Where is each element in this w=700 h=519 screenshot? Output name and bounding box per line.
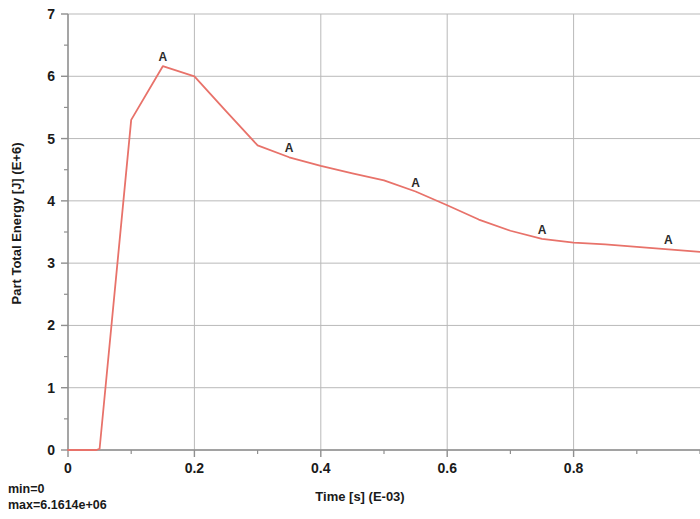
svg-text:3: 3 — [47, 255, 55, 271]
svg-text:7: 7 — [47, 6, 55, 22]
svg-text:0.8: 0.8 — [564, 460, 584, 476]
axis-lines — [68, 14, 700, 450]
gridlines — [68, 14, 700, 450]
max-value-label: max=6.1614e+06 — [8, 498, 107, 512]
x-axis-title: Time [s] (E-03) — [260, 489, 460, 504]
svg-text:A: A — [411, 176, 420, 190]
svg-text:4: 4 — [47, 193, 55, 209]
svg-text:A: A — [285, 141, 294, 155]
line-chart-plot: 0123456700.20.40.60.8 AAAAA — [0, 0, 700, 519]
svg-text:6: 6 — [47, 68, 55, 84]
svg-text:0.6: 0.6 — [437, 460, 457, 476]
series-marker-labels: AAAAA — [158, 50, 673, 247]
data-series-line — [68, 66, 700, 450]
svg-text:A: A — [664, 233, 673, 247]
svg-text:2: 2 — [47, 317, 55, 333]
svg-text:A: A — [158, 50, 167, 64]
svg-text:1: 1 — [47, 380, 55, 396]
svg-text:A: A — [538, 223, 547, 237]
svg-text:0.2: 0.2 — [185, 460, 205, 476]
svg-text:0.4: 0.4 — [311, 460, 331, 476]
min-value-label: min=0 — [8, 482, 44, 496]
svg-text:0: 0 — [64, 460, 72, 476]
svg-text:0: 0 — [47, 442, 55, 458]
axis-ticks — [61, 14, 700, 457]
chart-container: 0123456700.20.40.60.8 AAAAA Part Total E… — [0, 0, 700, 519]
y-axis-title: Part Total Energy [J] (E+6) — [9, 124, 24, 324]
svg-text:5: 5 — [47, 131, 55, 147]
